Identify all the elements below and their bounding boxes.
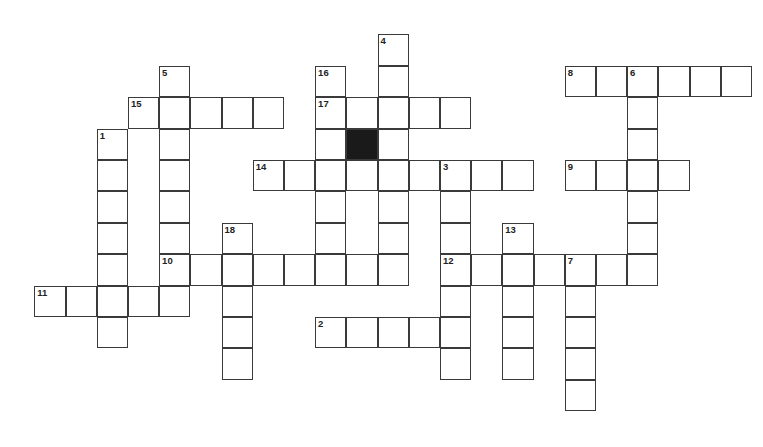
cell-letter-input[interactable] <box>441 161 470 190</box>
crossword-cell[interactable] <box>346 160 377 191</box>
cell-letter-input[interactable] <box>191 98 220 127</box>
cell-letter-input[interactable] <box>441 349 470 378</box>
cell-letter-input[interactable] <box>223 224 252 253</box>
cell-letter-input[interactable] <box>503 255 532 284</box>
cell-letter-input[interactable] <box>98 287 127 316</box>
cell-letter-input[interactable] <box>223 318 252 347</box>
cell-letter-input[interactable] <box>129 98 158 127</box>
crossword-cell[interactable] <box>627 191 658 222</box>
crossword-cell[interactable] <box>627 160 658 191</box>
cell-letter-input[interactable] <box>503 287 532 316</box>
crossword-cell[interactable] <box>128 286 159 317</box>
crossword-cell[interactable] <box>315 160 346 191</box>
crossword-cell[interactable] <box>346 97 377 128</box>
crossword-cell[interactable]: 4 <box>378 34 409 65</box>
cell-letter-input[interactable] <box>316 255 345 284</box>
crossword-cell[interactable] <box>627 223 658 254</box>
crossword-cell[interactable]: 12 <box>440 254 471 285</box>
crossword-cell[interactable] <box>627 97 658 128</box>
cell-letter-input[interactable] <box>223 349 252 378</box>
cell-letter-input[interactable] <box>566 67 595 96</box>
cell-letter-input[interactable] <box>160 130 189 159</box>
crossword-cell[interactable] <box>627 254 658 285</box>
cell-letter-input[interactable] <box>98 161 127 190</box>
cell-letter-input[interactable] <box>628 98 657 127</box>
crossword-cell[interactable]: 2 <box>315 317 346 348</box>
cell-letter-input[interactable] <box>659 67 688 96</box>
crossword-cell[interactable]: 14 <box>253 160 284 191</box>
cell-letter-input[interactable] <box>441 224 470 253</box>
cell-letter-input[interactable] <box>316 224 345 253</box>
crossword-cell[interactable] <box>565 380 596 411</box>
crossword-cell[interactable] <box>440 348 471 379</box>
crossword-cell[interactable]: 1 <box>97 129 128 160</box>
crossword-cell[interactable] <box>222 97 253 128</box>
cell-letter-input[interactable] <box>191 255 220 284</box>
cell-letter-input[interactable] <box>379 224 408 253</box>
crossword-cell[interactable] <box>378 223 409 254</box>
crossword-cell[interactable] <box>471 254 502 285</box>
cell-letter-input[interactable] <box>503 318 532 347</box>
cell-letter-input[interactable] <box>566 255 595 284</box>
cell-letter-input[interactable] <box>223 287 252 316</box>
cell-letter-input[interactable] <box>160 224 189 253</box>
crossword-cell[interactable]: 13 <box>502 223 533 254</box>
cell-letter-input[interactable] <box>254 98 283 127</box>
cell-letter-input[interactable] <box>566 161 595 190</box>
cell-letter-input[interactable] <box>472 255 501 284</box>
cell-letter-input[interactable] <box>410 98 439 127</box>
cell-letter-input[interactable] <box>379 318 408 347</box>
crossword-cell[interactable] <box>409 317 440 348</box>
cell-letter-input[interactable] <box>410 161 439 190</box>
cell-letter-input[interactable] <box>285 161 314 190</box>
crossword-cell[interactable] <box>159 129 190 160</box>
crossword-cell[interactable] <box>159 191 190 222</box>
crossword-cell[interactable] <box>721 66 752 97</box>
crossword-cell[interactable] <box>97 223 128 254</box>
crossword-cell[interactable] <box>378 66 409 97</box>
cell-letter-input[interactable] <box>35 287 64 316</box>
crossword-cell[interactable] <box>253 97 284 128</box>
cell-letter-input[interactable] <box>628 224 657 253</box>
cell-letter-input[interactable] <box>160 98 189 127</box>
cell-letter-input[interactable] <box>535 255 564 284</box>
crossword-cell[interactable] <box>627 129 658 160</box>
crossword-cell[interactable] <box>222 348 253 379</box>
cell-letter-input[interactable] <box>285 255 314 284</box>
crossword-cell[interactable] <box>97 254 128 285</box>
cell-letter-input[interactable] <box>597 67 626 96</box>
crossword-cell[interactable] <box>440 97 471 128</box>
cell-letter-input[interactable] <box>379 98 408 127</box>
cell-letter-input[interactable] <box>98 255 127 284</box>
cell-letter-input[interactable] <box>316 98 345 127</box>
crossword-cell[interactable] <box>658 66 689 97</box>
cell-letter-input[interactable] <box>316 318 345 347</box>
crossword-cell[interactable] <box>346 254 377 285</box>
crossword-cell[interactable] <box>471 160 502 191</box>
crossword-cell[interactable] <box>658 160 689 191</box>
crossword-cell[interactable] <box>440 191 471 222</box>
cell-letter-input[interactable] <box>566 381 595 410</box>
cell-letter-input[interactable] <box>379 161 408 190</box>
crossword-cell[interactable]: 11 <box>34 286 65 317</box>
crossword-cell[interactable] <box>596 66 627 97</box>
cell-letter-input[interactable] <box>254 255 283 284</box>
cell-letter-input[interactable] <box>67 287 96 316</box>
cell-letter-input[interactable] <box>628 192 657 221</box>
crossword-cell[interactable] <box>97 191 128 222</box>
cell-letter-input[interactable] <box>503 224 532 253</box>
cell-letter-input[interactable] <box>628 130 657 159</box>
cell-letter-input[interactable] <box>98 224 127 253</box>
cell-letter-input[interactable] <box>503 349 532 378</box>
crossword-cell[interactable] <box>159 223 190 254</box>
crossword-cell[interactable] <box>97 317 128 348</box>
cell-letter-input[interactable] <box>597 255 626 284</box>
cell-letter-input[interactable] <box>379 192 408 221</box>
cell-letter-input[interactable] <box>160 67 189 96</box>
crossword-cell[interactable] <box>378 254 409 285</box>
crossword-cell[interactable] <box>502 160 533 191</box>
crossword-cell[interactable] <box>159 97 190 128</box>
cell-letter-input[interactable] <box>410 318 439 347</box>
cell-letter-input[interactable] <box>628 161 657 190</box>
cell-letter-input[interactable] <box>316 192 345 221</box>
